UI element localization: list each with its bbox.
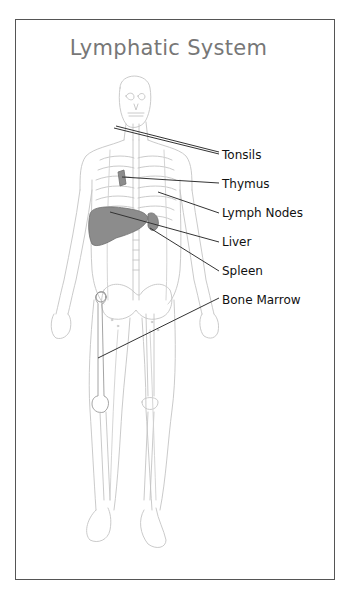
leader-lymph-nodes bbox=[158, 192, 219, 213]
label-thymus: Thymus bbox=[222, 177, 270, 191]
label-lymph-nodes: Lymph Nodes bbox=[222, 206, 303, 220]
label-tonsils: Tonsils bbox=[222, 148, 261, 162]
leader-tonsils bbox=[114, 128, 219, 154]
organs bbox=[89, 170, 159, 246]
label-liver: Liver bbox=[222, 235, 251, 249]
leader-lines bbox=[98, 126, 219, 358]
body-outline bbox=[51, 76, 218, 547]
leader-bone-marrow bbox=[98, 298, 219, 358]
label-bone-marrow: Bone Marrow bbox=[222, 293, 301, 307]
label-spleen: Spleen bbox=[222, 264, 263, 278]
leader-spleen bbox=[150, 228, 219, 271]
thymus-organ bbox=[118, 170, 126, 186]
